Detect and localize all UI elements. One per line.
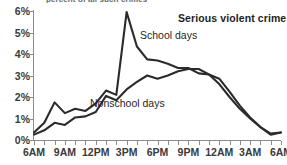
x-axis-tick <box>188 141 189 145</box>
x-axis-tick <box>137 141 138 145</box>
x-axis-tick <box>85 141 86 145</box>
x-axis-tick <box>209 141 210 145</box>
y-axis-tick <box>28 76 34 77</box>
y-axis-tick <box>28 97 34 98</box>
x-axis-tick <box>230 141 231 145</box>
x-axis-tick <box>219 141 220 145</box>
y-axis-tick <box>28 54 34 55</box>
serious-violent-crime-chart: percent of all such crimes 0%1%2%3%4%5%6… <box>0 0 287 165</box>
x-axis-tick <box>199 141 200 145</box>
series-label-nonschool-days: Nonschool days <box>90 97 165 109</box>
y-axis-tick <box>28 119 34 120</box>
x-axis-tick <box>178 141 179 145</box>
y-axis-tick <box>28 11 34 12</box>
x-axis-tick <box>250 141 251 145</box>
x-axis-tick <box>127 141 128 145</box>
x-axis-tick <box>116 141 117 145</box>
x-axis-tick <box>44 141 45 145</box>
x-axis-tick <box>34 141 35 145</box>
x-axis-tick <box>106 141 107 145</box>
x-axis-tick <box>158 141 159 145</box>
x-axis-tick <box>168 141 169 145</box>
x-axis-tick <box>55 141 56 145</box>
series-layer <box>0 0 287 165</box>
y-axis-tick <box>28 33 34 34</box>
x-axis-tick <box>75 141 76 145</box>
series-label-school-days: School days <box>140 29 197 41</box>
plot-area: 0%1%2%3%4%5%6% 6AM9AM12PM3PM6PM9PM12AM3A… <box>0 0 287 165</box>
x-axis-tick <box>281 141 282 145</box>
x-axis-tick <box>96 141 97 145</box>
x-axis-tick <box>147 141 148 145</box>
x-axis-tick <box>260 141 261 145</box>
x-axis-tick <box>65 141 66 145</box>
x-axis-tick <box>240 141 241 145</box>
x-axis-tick <box>271 141 272 145</box>
chart-annotation-title: Serious violent crime <box>178 12 286 24</box>
